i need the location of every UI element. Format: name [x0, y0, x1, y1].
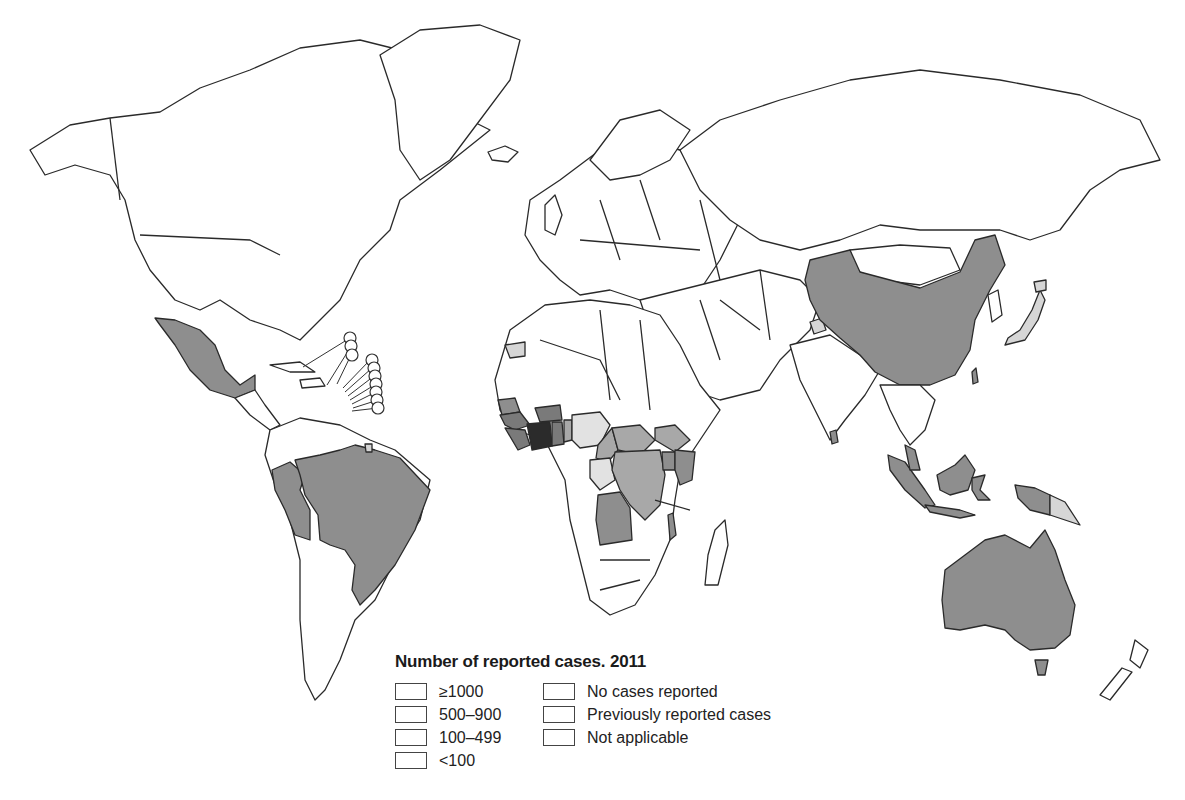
swatch-not-applicable	[543, 729, 575, 746]
region-new-guinea-east	[1050, 495, 1080, 525]
swatch-no-cases	[543, 683, 575, 700]
region-uganda	[662, 452, 675, 470]
legend-label: No cases reported	[587, 683, 718, 701]
region-mexico	[155, 318, 255, 398]
legend-item-100-499: 100–499	[395, 728, 543, 747]
region-togo-benin	[564, 420, 572, 442]
legend-item-500-900: 500–900	[395, 705, 543, 724]
swatch-lt100	[395, 752, 427, 769]
region-iceland	[488, 146, 518, 162]
region-new-zealand	[1130, 640, 1148, 668]
legend-label: Not applicable	[587, 729, 688, 747]
region-java	[925, 505, 975, 518]
swatch-ge1000	[395, 683, 427, 700]
legend-item-no-cases: No cases reported	[543, 682, 771, 701]
region-tasmania	[1035, 660, 1048, 675]
region-madagascar	[705, 520, 728, 585]
region-sri-lanka	[830, 430, 838, 444]
region-new-guinea-west	[1015, 485, 1050, 515]
region-sulawesi	[972, 475, 990, 500]
legend-label: 100–499	[439, 729, 501, 747]
legend-title: Number of reported cases. 2011	[395, 652, 795, 672]
region-japan	[1005, 290, 1045, 345]
region-malawi	[668, 513, 676, 540]
swatch-100-499	[395, 729, 427, 746]
region-ghana	[552, 422, 564, 446]
region-kenya	[675, 450, 695, 485]
region-new-zealand-south	[1100, 668, 1132, 700]
region-hokkaido	[1034, 280, 1046, 292]
legend-item-previous: Previously reported cases	[543, 705, 771, 724]
region-southeast-asia	[880, 385, 935, 445]
legend-item-lt100: <100	[395, 751, 543, 770]
legend-column-status: No cases reported Previously reported ca…	[543, 682, 771, 770]
region-burkina-faso	[535, 405, 562, 422]
region-french-guiana	[365, 444, 372, 452]
region-korea	[988, 290, 1002, 322]
region-hispaniola	[300, 378, 325, 388]
region-cote-divoire	[527, 422, 552, 450]
region-taiwan	[972, 368, 978, 384]
region-australia	[942, 530, 1075, 650]
caribbean-inset-markers	[303, 332, 384, 414]
region-russia	[680, 70, 1160, 250]
legend-item-not-applicable: Not applicable	[543, 728, 771, 747]
legend-label: <100	[439, 752, 475, 770]
swatch-500-900	[395, 706, 427, 723]
region-borneo	[937, 455, 975, 495]
legend-label: Previously reported cases	[587, 706, 771, 724]
swatch-previous	[543, 706, 575, 723]
region-central-america	[235, 390, 280, 430]
map-legend: Number of reported cases. 2011 ≥1000 500…	[395, 652, 795, 770]
legend-label: ≥1000	[439, 683, 483, 701]
legend-label: 500–900	[439, 706, 501, 724]
legend-item-ge1000: ≥1000	[395, 682, 543, 701]
legend-column-counts: ≥1000 500–900 100–499 <100	[395, 682, 543, 770]
